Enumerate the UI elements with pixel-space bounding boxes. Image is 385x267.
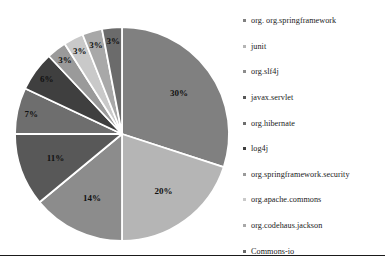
- legend-color-swatch-icon: [243, 70, 246, 73]
- legend-item[interactable]: Commons-io: [240, 238, 385, 264]
- legend-item[interactable]: org.codehaus.jackson: [240, 213, 385, 239]
- pie-slice-value-label: 7%: [24, 109, 38, 119]
- legend-item-label: javax.servlet: [251, 93, 293, 102]
- legend-item[interactable]: org. org.springframework: [240, 8, 385, 34]
- legend-color-swatch-icon: [243, 19, 246, 22]
- pie-slice-value-label: 3%: [89, 40, 103, 50]
- legend-item-label: log4j: [251, 144, 268, 153]
- legend-item-label: org.apache.commons: [251, 195, 321, 204]
- legend-item-label: org.springframework.security: [251, 170, 350, 179]
- legend-color-swatch-icon: [243, 147, 246, 150]
- legend-color-swatch-icon: [243, 250, 246, 253]
- pie-chart-plot-area: 30%20%14%11%7%6%3%3%3%3%: [12, 18, 234, 248]
- chart-legend: org. org.springframeworkjunitorg.slf4jja…: [240, 8, 385, 256]
- legend-item-label: org.slf4j: [251, 67, 279, 76]
- pie-slice-value-label: 3%: [73, 46, 87, 56]
- pie-slice-value-label: 6%: [40, 74, 54, 84]
- legend-item-label: org.codehaus.jackson: [251, 221, 322, 230]
- legend-item[interactable]: org.slf4j: [240, 59, 385, 85]
- pie-slice-group: [15, 27, 229, 241]
- legend-item[interactable]: org.springframework.security: [240, 162, 385, 188]
- pie-slice-value-label: 3%: [106, 36, 120, 46]
- pie-slice-value-label: 11%: [47, 153, 65, 163]
- pie-chart-svg: 30%20%14%11%7%6%3%3%3%3%: [12, 18, 234, 248]
- bottom-divider: [0, 255, 385, 256]
- legend-color-swatch-icon: [243, 45, 246, 48]
- pie-chart-figure: 30%20%14%11%7%6%3%3%3%3% org. org.spring…: [0, 0, 385, 267]
- pie-slice-value-label: 30%: [170, 88, 188, 98]
- pie-slice-value-label: 3%: [58, 55, 72, 65]
- legend-color-swatch-icon: [243, 96, 246, 99]
- legend-item[interactable]: javax.servlet: [240, 85, 385, 111]
- legend-color-swatch-icon: [243, 198, 246, 201]
- legend-item-label: junit: [251, 42, 266, 51]
- pie-slice-value-label: 20%: [155, 186, 173, 196]
- legend-color-swatch-icon: [243, 122, 246, 125]
- legend-item-label: org.hibernate: [251, 119, 295, 128]
- pie-slice-value-label: 14%: [83, 193, 101, 203]
- legend-item-label: org. org.springframework: [251, 16, 336, 25]
- legend-color-swatch-icon: [243, 224, 246, 227]
- legend-item[interactable]: org.hibernate: [240, 110, 385, 136]
- legend-item[interactable]: log4j: [240, 136, 385, 162]
- legend-color-swatch-icon: [243, 173, 246, 176]
- legend-item[interactable]: junit: [240, 34, 385, 60]
- legend-item[interactable]: org.apache.commons: [240, 187, 385, 213]
